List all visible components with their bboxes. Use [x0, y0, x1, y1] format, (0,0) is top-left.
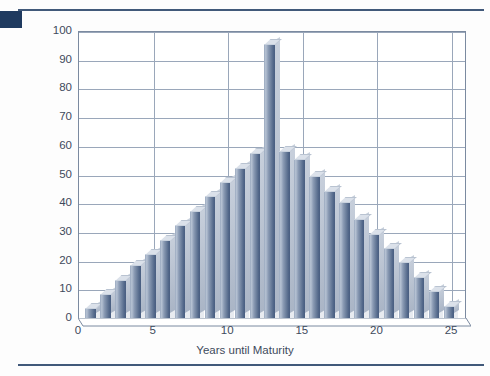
- bar-column: [369, 235, 379, 318]
- bar-front-face: [414, 277, 424, 318]
- bar-front-face: [220, 182, 230, 318]
- bar-column: [264, 45, 274, 318]
- bar-column: [399, 263, 409, 318]
- bar-front-face: [130, 265, 140, 318]
- bar-front-face: [175, 225, 185, 318]
- bar-front-face: [444, 306, 454, 318]
- bar-column: [324, 192, 334, 318]
- bar-column: [309, 177, 319, 318]
- bar-column: [100, 295, 110, 318]
- bar-column: [414, 278, 424, 318]
- bar-front-face: [190, 211, 200, 318]
- bar-column: [250, 154, 260, 318]
- bar-column: [354, 220, 364, 318]
- bar-front-face: [85, 308, 95, 318]
- y-axis-tick-label: 60: [42, 140, 72, 152]
- bar-front-face: [115, 280, 125, 318]
- bar-front-face: [384, 248, 394, 318]
- bar-front-face: [235, 168, 245, 318]
- bar-front-face: [100, 294, 110, 318]
- bar-front-face: [205, 196, 215, 318]
- bar-front-face: [429, 291, 439, 318]
- bar-column: [145, 255, 155, 318]
- bar-front-face: [264, 44, 274, 318]
- y-axis-tick-label: 10: [42, 283, 72, 295]
- chart-page: Par Value Held ($ in Thousands) 01020304…: [0, 0, 490, 376]
- bar-column: [220, 183, 230, 318]
- y-axis-tick-label: 20: [42, 255, 72, 267]
- x-axis-title: Years until Maturity: [0, 344, 490, 356]
- bar-front-face: [250, 153, 260, 318]
- y-axis-tick-label: 30: [42, 226, 72, 238]
- bar-column: [429, 292, 439, 318]
- chart-floor: [78, 318, 471, 332]
- bar-column: [444, 307, 454, 318]
- y-axis-tick-label: 80: [42, 82, 72, 94]
- bar-front-face: [339, 202, 349, 318]
- bar-series: [78, 31, 466, 318]
- bar-column: [235, 169, 245, 318]
- bar-column: [160, 241, 170, 318]
- bar-front-face: [369, 234, 379, 318]
- x-axis-tick-label: 25: [439, 324, 463, 336]
- x-axis-tick-label: 15: [290, 324, 314, 336]
- bar-front-face: [145, 254, 155, 318]
- bar-column: [190, 212, 200, 318]
- bar-chart: Par Value Held ($ in Thousands) 01020304…: [0, 0, 490, 376]
- x-axis-tick-label: 5: [141, 324, 165, 336]
- bar-front-face: [160, 240, 170, 318]
- bar-column: [85, 309, 95, 318]
- x-axis-tick-label: 0: [66, 324, 90, 336]
- bar-front-face: [279, 151, 289, 318]
- y-axis-tick-label: 0: [42, 312, 72, 324]
- bar-column: [205, 197, 215, 318]
- y-axis-tick-label: 50: [42, 169, 72, 181]
- y-axis-tick-label: 90: [42, 54, 72, 66]
- bar-column: [279, 152, 289, 318]
- x-axis-tick-label: 20: [364, 324, 388, 336]
- bar-front-face: [354, 219, 364, 318]
- y-axis-tick-label: 40: [42, 197, 72, 209]
- bar-column: [130, 266, 140, 318]
- bar-column: [339, 203, 349, 318]
- bar-column: [384, 249, 394, 318]
- bar-front-face: [294, 159, 304, 318]
- bar-front-face: [309, 176, 319, 318]
- bar-column: [294, 160, 304, 318]
- bar-column: [175, 226, 185, 318]
- x-axis-tick-label: 10: [215, 324, 239, 336]
- bar-front-face: [324, 191, 334, 318]
- bar-column: [115, 281, 125, 318]
- bar-front-face: [399, 262, 409, 318]
- y-axis-tick-labels: 0102030405060708090100: [40, 0, 72, 376]
- y-axis-tick-label: 100: [42, 25, 72, 37]
- y-axis-tick-label: 70: [42, 111, 72, 123]
